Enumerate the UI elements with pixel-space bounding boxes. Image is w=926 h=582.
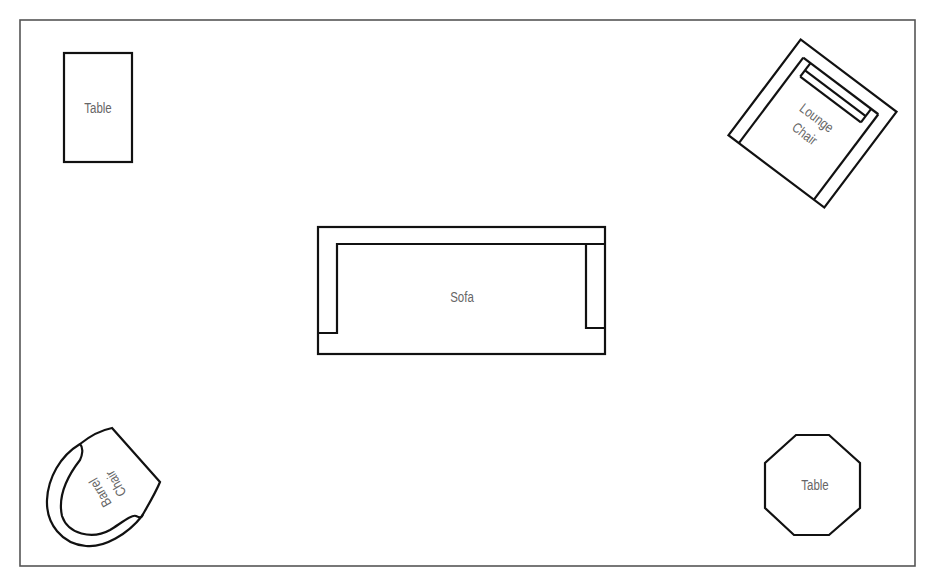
barrel-chair[interactable]: Barrel Chair (47, 428, 160, 546)
lounge-chair[interactable]: Lounge Chair (728, 39, 896, 207)
sofa[interactable]: Sofa (318, 227, 605, 354)
table-rectangular[interactable]: Table (64, 53, 132, 162)
table-octagonal-label: Table (801, 477, 828, 493)
floor-plan-diagram: Table Lounge Chair Sofa Ba (0, 0, 926, 582)
table-octagonal[interactable]: Table (765, 435, 860, 535)
table-rectangular-label: Table (84, 100, 111, 116)
sofa-label: Sofa (450, 289, 474, 305)
